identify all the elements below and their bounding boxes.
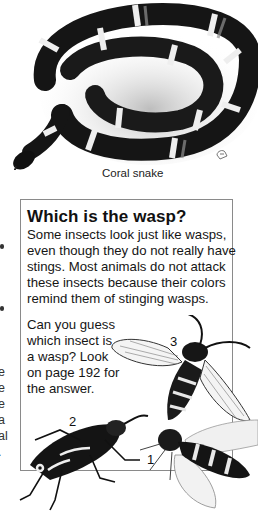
insect-3-moth <box>112 315 250 421</box>
insect-2-beetle <box>20 415 148 510</box>
sidebar-body-text: Some insects look just like wasps, even … <box>27 227 237 307</box>
insect-label-3: 3 <box>170 334 177 349</box>
left-fragment-mark <box>0 244 4 249</box>
artist-signature-icon <box>214 147 230 161</box>
insects-illustration <box>0 315 258 514</box>
insect-label-2: 2 <box>69 414 76 429</box>
sidebar-title: Which is the wasp? <box>27 207 187 227</box>
insect-label-1: 1 <box>147 452 154 467</box>
insect-1-hoverfly <box>140 420 258 508</box>
snake-caption: Coral snake <box>102 167 163 179</box>
left-fragment-mark <box>0 306 4 311</box>
coral-snake-illustration <box>0 0 258 170</box>
